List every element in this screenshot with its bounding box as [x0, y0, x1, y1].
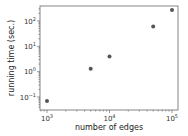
data-point — [151, 25, 155, 29]
y-tick-label: 101 — [24, 41, 36, 51]
data-point — [45, 99, 49, 103]
x-tick-label: 105 — [166, 113, 178, 123]
y-tick-label: 10−1 — [20, 92, 36, 102]
data-point — [108, 54, 112, 58]
y-tick-label: 102 — [24, 16, 36, 26]
y-tick-label: 100 — [24, 66, 36, 76]
x-tick-label: 104 — [103, 113, 115, 123]
x-tick-label: 103 — [41, 113, 53, 123]
scatter-chart: 103104105 10−1100101102 number of edges … — [0, 0, 188, 136]
x-axis-ticks: 103104105 — [41, 110, 178, 123]
data-point — [89, 67, 93, 71]
y-axis-label: running time (sec.) — [7, 20, 16, 96]
data-point — [170, 8, 174, 12]
x-axis-label: number of edges — [75, 123, 143, 132]
y-axis-ticks: 10−1100101102 — [20, 9, 40, 107]
